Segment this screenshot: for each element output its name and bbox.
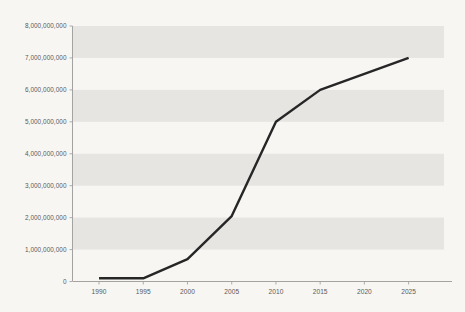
x-tick-label: 2000 [180,288,195,295]
y-tick-label: 8,000,000,000 [25,22,67,29]
x-tick-label: 1995 [136,288,151,295]
line-chart: 01,000,000,0002,000,000,0003,000,000,000… [0,0,465,312]
background-band [73,218,445,250]
x-tick-label: 2020 [357,288,372,295]
chart-container: 01,000,000,0002,000,000,0003,000,000,000… [0,0,465,312]
y-tick-label: 7,000,000,000 [25,54,67,61]
y-tick-label: 5,000,000,000 [25,118,67,125]
x-tick-label: 2005 [224,288,239,295]
y-tick-label: 0 [63,278,67,285]
y-tick-label: 3,000,000,000 [25,182,67,189]
y-tick-label: 2,000,000,000 [25,214,67,221]
y-tick-label: 1,000,000,000 [25,246,67,253]
x-tick-label: 2010 [269,288,284,295]
y-tick-label: 6,000,000,000 [25,86,67,93]
y-tick-label: 4,000,000,000 [25,150,67,157]
background-band [73,26,445,58]
x-tick-label: 1990 [92,288,107,295]
x-tick-label: 2025 [401,288,416,295]
x-tick-label: 2015 [313,288,328,295]
background-band [73,90,445,122]
